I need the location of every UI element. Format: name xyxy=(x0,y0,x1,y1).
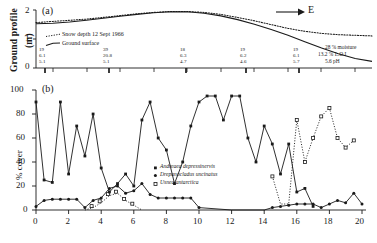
sample-5-ph: 5.7 xyxy=(293,59,300,65)
panel-b-drepanocladus-markers xyxy=(35,182,364,209)
sample-5-loi: 6.1 xyxy=(293,53,300,59)
panel-b-ytick-100: 100 xyxy=(10,85,24,94)
side-moisture-unit: % moisture xyxy=(332,44,357,50)
sample-annotation-1: 19 6.1 5.1 xyxy=(39,47,46,65)
panel-b-xtick-12: 12 xyxy=(226,217,235,226)
legend-marker-drepanocladus xyxy=(154,174,157,177)
panel-b-xtick-14: 14 xyxy=(258,217,267,226)
sample-annotation-5: 19 6.1 5.7 xyxy=(293,47,300,65)
panel-b-xtick-2: 2 xyxy=(66,217,71,226)
panel-b-xtick-4: 4 xyxy=(98,217,103,226)
panel-b-xtick-10: 10 xyxy=(193,217,202,226)
panel-b-xtick-20: 20 xyxy=(355,217,364,226)
sample-1-loi: 6.1 xyxy=(39,53,46,59)
panel-b-andreaea-markers xyxy=(35,95,315,208)
legend-swatch-snow-depth xyxy=(46,34,60,36)
legend-swatch-ground-surface xyxy=(46,43,60,46)
sample-annotation-2: 39 20.8 5.1 xyxy=(103,47,112,65)
side-annotation-moisture: 28 % moisture xyxy=(325,44,356,51)
figure-root: Ground profile (m) 2 1 0 (a) E xyxy=(0,0,377,243)
side-annotation-ph: 5.6 pH xyxy=(325,58,340,65)
panel-b-ytick-0: 0 xyxy=(23,205,28,214)
panel-b-xtick-18: 18 xyxy=(323,217,332,226)
legend-marker-andreaea xyxy=(154,167,157,170)
panel-b-usnea-markers xyxy=(90,107,355,208)
panel-b-xtick-0: 0 xyxy=(33,217,38,226)
sample-4-ph: 4.6 xyxy=(240,59,247,65)
panel-b-legend-label-andreaea: Andreaea depressinervis xyxy=(160,164,215,170)
sample-3-loi: 6.3 xyxy=(180,53,187,59)
panel-a-plot xyxy=(0,0,377,80)
panel-b-ytick-40: 40 xyxy=(16,157,25,166)
panel-b-legend-label-usnea: Usnea antarctica xyxy=(160,180,198,186)
panel-b-xtick-8: 8 xyxy=(163,217,168,226)
panel-b-ytick-80: 80 xyxy=(16,109,25,118)
panel-b-series-usnea-right xyxy=(272,108,353,204)
panel-b-series-andreaea xyxy=(36,96,313,206)
panel-b-xtick-16: 16 xyxy=(291,217,300,226)
panel-b-xtick-6: 6 xyxy=(131,217,136,226)
sample-1-ph: 5.1 xyxy=(39,59,46,65)
side-loi-value: 13.2 xyxy=(318,51,327,57)
panel-a-legend-label-snow-depth: Snow depth 12 Sept 1966 xyxy=(62,31,124,37)
sample-3-ph: 4.7 xyxy=(180,59,187,65)
sample-annotation-3: 18 6.3 4.7 xyxy=(180,47,187,65)
panel-a-ground-profile: Ground profile (m) 2 1 0 (a) E xyxy=(0,0,377,80)
panel-b-legend-label-drepanocladus: Drepanocladus uncinatus xyxy=(160,172,217,178)
legend-marker-usnea xyxy=(154,183,157,186)
panel-a-legend-label-ground-surface: Ground surface xyxy=(62,40,99,46)
side-annotation-loi: 13.2 % L.O.I xyxy=(318,51,346,58)
panel-b-ytick-60: 60 xyxy=(16,133,25,142)
side-ph-unit: pH xyxy=(333,58,340,64)
side-ph-value: 5.6 xyxy=(325,58,332,64)
panel-b-ytick-20: 20 xyxy=(16,181,25,190)
sample-4-loi: 6.2 xyxy=(240,53,247,59)
sample-2-ph: 5.1 xyxy=(103,59,112,65)
panel-b-percent-cover: % cover (b) xyxy=(0,82,377,243)
sample-annotation-4: 19 6.2 4.6 xyxy=(240,47,247,65)
sample-2-loi: 20.8 xyxy=(103,53,112,59)
side-moisture-value: 28 xyxy=(325,44,330,50)
side-loi-unit: % L.O.I xyxy=(329,51,347,57)
